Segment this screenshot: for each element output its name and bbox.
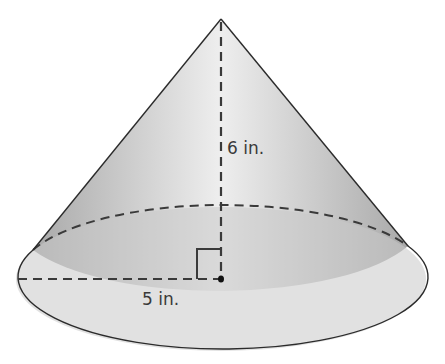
height-label: 6 in. — [227, 138, 264, 158]
radius-label: 5 in. — [142, 289, 179, 309]
cone-diagram: 6 in. 5 in. — [0, 0, 445, 364]
center-point — [218, 276, 224, 283]
